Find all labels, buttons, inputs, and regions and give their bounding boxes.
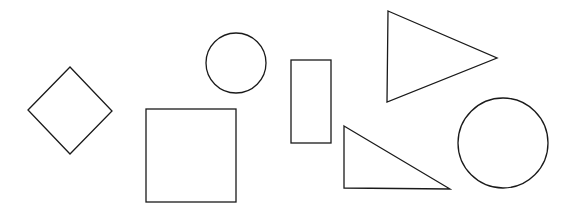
diamond-shape xyxy=(28,67,112,154)
triangle-shape xyxy=(387,11,497,102)
shapes-canvas xyxy=(0,0,571,210)
small-circle-shape xyxy=(206,33,266,93)
right-triangle-shape xyxy=(344,126,450,189)
rectangle-shape xyxy=(291,60,331,143)
square-shape xyxy=(146,109,236,202)
large-circle-shape xyxy=(458,98,548,188)
